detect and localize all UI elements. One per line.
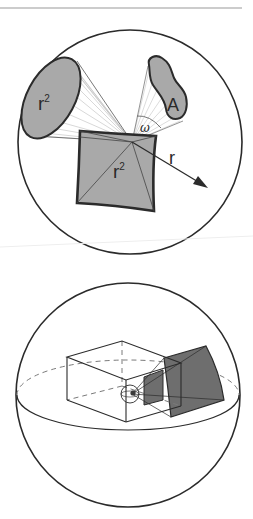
angle-omega-label: ω (140, 121, 150, 135)
bottom-figure (16, 283, 240, 507)
diagram-canvas: r2 ω A r2 r (0, 0, 253, 519)
page-crease (0, 236, 253, 247)
center-tiny-patch (130, 390, 135, 395)
radius-arrowhead (193, 176, 208, 188)
radius-label: r (169, 148, 175, 168)
top-figure: r2 ω A r2 r (9, 30, 242, 254)
blob-area-label: A (167, 95, 179, 115)
cube-face-patch (144, 370, 163, 405)
cube-visible-edges (67, 341, 181, 422)
sphere-projected-patch (164, 346, 224, 417)
